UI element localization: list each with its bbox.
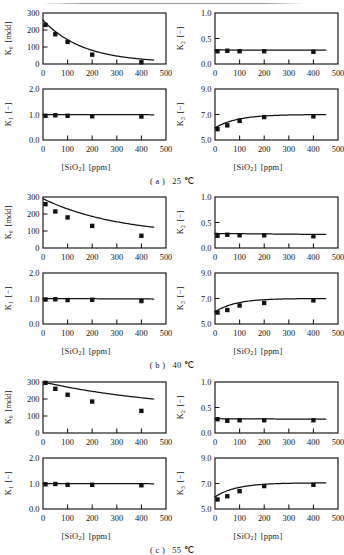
x-axis-bracket-close: ]	[82, 531, 85, 541]
svg-text:500: 500	[160, 329, 172, 338]
data-point	[215, 497, 219, 501]
svg-text:100: 100	[27, 227, 40, 236]
data-point	[53, 387, 57, 391]
svg-text:100: 100	[233, 438, 246, 447]
svg-text:100: 100	[61, 438, 74, 447]
svg-text:300: 300	[283, 145, 296, 154]
data-point	[237, 49, 241, 53]
x-axis-species: [SiO	[234, 162, 251, 172]
svg-text:500: 500	[332, 329, 344, 338]
data-point	[139, 409, 143, 413]
svg-text:100: 100	[61, 145, 74, 154]
svg-text:200: 200	[258, 69, 271, 78]
x-axis-unit: [ppm]	[261, 162, 283, 172]
plot-panel-k0-a: 01002003004005000100200300K0 [mdd]	[0, 8, 172, 82]
data-point	[262, 418, 266, 422]
svg-text:1.0: 1.0	[201, 193, 211, 202]
x-axis-label-right-b: [SiO2][ppm]	[172, 346, 344, 356]
section-caption-b: ( b )40 ℃	[0, 360, 344, 370]
figure-section-a: 01002003004005000100200300K0 [mdd]010020…	[0, 8, 344, 160]
data-point	[262, 115, 266, 119]
svg-text:400: 400	[307, 438, 320, 447]
data-point	[215, 310, 219, 314]
svg-text:100: 100	[233, 253, 246, 262]
svg-text:K3 [−]: K3 [−]	[176, 103, 186, 127]
data-point	[43, 114, 47, 118]
svg-text:300: 300	[111, 514, 124, 523]
svg-text:400: 400	[307, 253, 320, 262]
caption-label: ( c )	[150, 545, 165, 555]
svg-text:1.0: 1.0	[29, 480, 39, 489]
svg-text:0.0: 0.0	[201, 60, 211, 69]
svg-text:0: 0	[35, 429, 39, 438]
data-point	[139, 114, 143, 118]
svg-text:0: 0	[41, 145, 45, 154]
data-point	[43, 202, 47, 206]
data-point	[237, 489, 241, 493]
section-caption-c: ( c )55 ℃	[0, 545, 344, 555]
svg-text:300: 300	[283, 253, 296, 262]
panel-grid-a: 01002003004005000100200300K0 [mdd]010020…	[0, 8, 344, 160]
svg-text:500: 500	[160, 145, 172, 154]
svg-text:400: 400	[135, 69, 148, 78]
svg-text:0.0: 0.0	[29, 136, 39, 145]
plot-panel-k1-c: 01002003004005000.01.02.0K1 [−]	[0, 453, 172, 527]
svg-text:500: 500	[160, 514, 172, 523]
svg-text:300: 300	[111, 329, 124, 338]
x-axis-bracket-close: ]	[82, 162, 85, 172]
x-axis-species: [SiO	[62, 346, 79, 356]
svg-text:0: 0	[35, 60, 39, 69]
data-point	[90, 298, 94, 302]
svg-text:100: 100	[233, 69, 246, 78]
caption-label: ( a )	[150, 176, 165, 186]
svg-text:0.0: 0.0	[201, 244, 211, 253]
data-point	[215, 49, 219, 53]
data-point	[43, 482, 47, 486]
data-point	[311, 50, 315, 54]
x-axis-species: [SiO	[234, 346, 251, 356]
data-point	[262, 301, 266, 305]
x-axis-bracket-close: ]	[82, 346, 85, 356]
svg-text:K0 [mdd]: K0 [mdd]	[4, 206, 14, 240]
svg-text:200: 200	[27, 26, 40, 35]
data-point	[65, 114, 69, 118]
data-point	[53, 482, 57, 486]
svg-text:200: 200	[86, 145, 99, 154]
svg-text:400: 400	[135, 253, 148, 262]
svg-text:100: 100	[61, 514, 74, 523]
svg-text:500: 500	[160, 438, 172, 447]
svg-text:300: 300	[27, 9, 40, 18]
svg-text:0: 0	[41, 253, 45, 262]
svg-text:100: 100	[27, 43, 40, 52]
data-point	[43, 381, 47, 385]
svg-text:100: 100	[233, 329, 246, 338]
caption-temperature: 40 ℃	[172, 360, 194, 370]
svg-text:7.0: 7.0	[201, 480, 211, 489]
svg-text:1.0: 1.0	[201, 9, 211, 18]
svg-text:400: 400	[307, 514, 320, 523]
svg-text:0.0: 0.0	[201, 429, 211, 438]
svg-text:500: 500	[160, 69, 172, 78]
data-point	[215, 417, 219, 421]
svg-text:200: 200	[86, 253, 99, 262]
svg-text:300: 300	[111, 438, 124, 447]
data-point	[262, 233, 266, 237]
x-axis-bracket-close: ]	[254, 346, 257, 356]
svg-text:500: 500	[332, 69, 344, 78]
svg-text:K2 [−]: K2 [−]	[176, 211, 186, 235]
svg-text:5.0: 5.0	[201, 136, 211, 145]
svg-text:200: 200	[258, 253, 271, 262]
x-axis-bracket-close: ]	[254, 162, 257, 172]
panel-grid-b: 01002003004005000100200300K0 [mdd]010020…	[0, 192, 344, 344]
x-axis-label-left-a: [SiO2][ppm]	[0, 162, 172, 172]
svg-text:0: 0	[213, 514, 217, 523]
x-axis-species: [SiO	[62, 531, 79, 541]
svg-text:300: 300	[27, 378, 40, 387]
data-point	[139, 234, 143, 238]
svg-text:100: 100	[61, 329, 74, 338]
svg-text:K3 [−]: K3 [−]	[176, 287, 186, 311]
svg-text:500: 500	[332, 145, 344, 154]
svg-text:0: 0	[213, 329, 217, 338]
svg-text:K2 [−]: K2 [−]	[176, 396, 186, 420]
